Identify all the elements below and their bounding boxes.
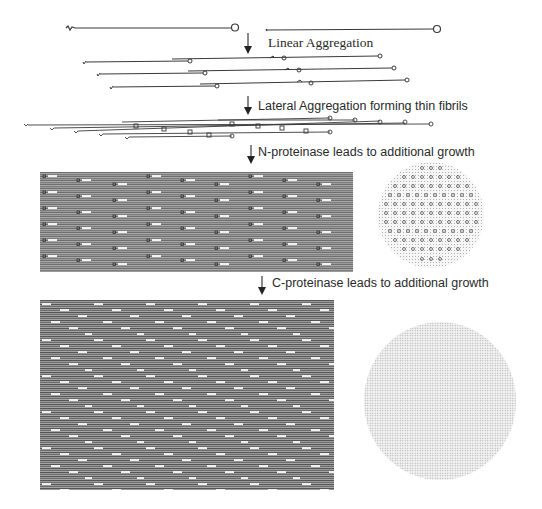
n-processed-cross-section — [378, 162, 484, 268]
step-label-linear-aggregation: Linear Aggregation — [268, 35, 373, 51]
bundle-gaps — [40, 172, 353, 272]
monomer-right — [266, 26, 441, 33]
step-label-c-proteinase: C-proteinase leads to additional growth — [272, 276, 489, 290]
cross-section-molecules — [378, 162, 484, 268]
n-processed-fibril-bundle — [40, 172, 353, 272]
arrow-4 — [258, 276, 266, 295]
step-label-n-proteinase: N-proteinase leads to additional growth — [258, 145, 475, 159]
bundle-gaps — [40, 300, 334, 490]
arrow-3 — [247, 145, 255, 164]
arrow-2 — [244, 96, 252, 115]
linear-aggregate-rows — [83, 54, 409, 89]
step-label-lateral-aggregation: Lateral Aggregation forming thin fibrils — [258, 99, 468, 113]
arrow-1 — [244, 33, 252, 54]
monomer-left — [66, 24, 239, 31]
c-processed-cross-section — [364, 322, 516, 480]
thin-fibril — [24, 116, 433, 139]
c-processed-fibril-bundle — [40, 300, 334, 490]
